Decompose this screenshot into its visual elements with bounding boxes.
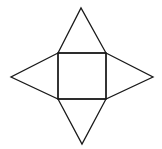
bottom-face [58,99,106,144]
pyramid-net-diagram [0,0,162,149]
right-face [106,53,153,99]
top-face [58,8,106,53]
left-face [11,53,58,99]
diagram-svg [0,0,162,149]
base-square [58,53,106,99]
